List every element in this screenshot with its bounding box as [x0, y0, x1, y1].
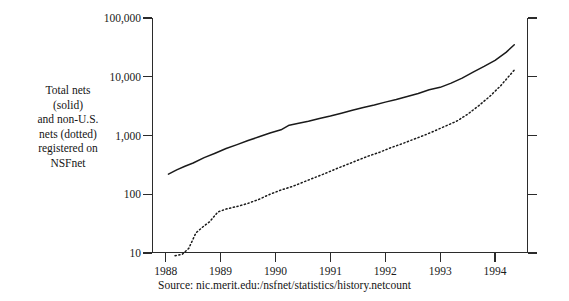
x-tick-mark	[220, 253, 221, 262]
y-tick-mark-left	[143, 76, 152, 77]
x-tick-label: 1988	[154, 265, 177, 277]
y-tick-label: 10,000	[109, 71, 141, 83]
x-tick-mark	[494, 253, 495, 262]
series-non-us-nets-dotted	[175, 70, 514, 256]
y-tick-label: 10	[130, 247, 142, 259]
y-tick-label: 100	[124, 188, 141, 200]
caption-line-6: NSFnet	[18, 156, 118, 171]
y-tick-mark-left	[143, 17, 152, 18]
y-tick-mark-right	[528, 17, 537, 18]
x-tick-label: 1990	[264, 265, 287, 277]
y-tick-mark-left	[143, 135, 152, 136]
caption-line-3: and non-U.S.	[18, 112, 118, 127]
y-tick-label: 1,000	[115, 130, 141, 142]
x-tick-label: 1994	[484, 265, 507, 277]
chart-caption: Total nets (solid) and non-U.S. nets (do…	[18, 83, 118, 171]
y-tick-label: 100,000	[104, 12, 141, 24]
series-total-nets-solid	[168, 45, 514, 174]
chart-series-layer	[152, 18, 528, 253]
y-tick-mark-right	[528, 135, 537, 136]
x-tick-mark	[440, 253, 441, 262]
x-tick-label: 1992	[374, 265, 397, 277]
x-tick-mark	[330, 253, 331, 262]
caption-line-5: registered on	[18, 141, 118, 156]
source-caption: Source: nic.merit.edu:/nsfnet/statistics…	[0, 279, 569, 291]
chart-plot-area: 101001,00010,000100,000 1988198919901991…	[152, 18, 528, 253]
x-tick-mark	[165, 253, 166, 262]
caption-line-2: (solid)	[18, 98, 118, 113]
x-tick-label: 1993	[429, 265, 452, 277]
y-tick-mark-right	[528, 194, 537, 195]
y-tick-mark-left	[143, 252, 152, 253]
y-tick-mark-left	[143, 194, 152, 195]
x-tick-mark	[275, 253, 276, 262]
x-tick-label: 1989	[209, 265, 232, 277]
x-tick-mark	[385, 253, 386, 262]
y-tick-mark-right	[528, 76, 537, 77]
y-tick-mark-right	[528, 252, 537, 253]
figure-nsfnet-networks: Total nets (solid) and non-U.S. nets (do…	[0, 0, 569, 301]
caption-line-1: Total nets	[18, 83, 118, 98]
x-tick-label: 1991	[319, 265, 342, 277]
caption-line-4: nets (dotted)	[18, 127, 118, 142]
